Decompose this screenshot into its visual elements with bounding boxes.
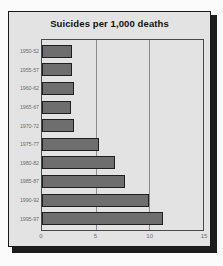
- bar: [42, 82, 74, 95]
- bar-row: 1990-92: [42, 194, 203, 207]
- bar-row: 1995-97: [42, 212, 203, 225]
- category-label: 1980-82: [20, 160, 39, 166]
- x-axis-tick-label: 5: [94, 233, 97, 239]
- bar-series: 1950-521955-571960-621965-671970-721975-…: [42, 40, 203, 230]
- bar: [42, 138, 99, 151]
- bar-row: 1985-87: [42, 175, 203, 188]
- x-axis-tick-label: 0: [39, 233, 42, 239]
- bar-row: 1960-62: [42, 82, 203, 95]
- bar: [42, 175, 125, 188]
- bar-row: 1980-82: [42, 156, 203, 169]
- bar-row: 1975-77: [42, 138, 203, 151]
- bar-row: 1955-57: [42, 63, 203, 76]
- bar: [42, 212, 163, 225]
- bar-row: 1965-67: [42, 101, 203, 114]
- x-axis-tick-label: 15: [201, 233, 208, 239]
- bar: [42, 156, 115, 169]
- chart-frame: Suicides per 1,000 deaths 1950-521955-57…: [8, 11, 211, 247]
- category-label: 1960-62: [20, 85, 39, 91]
- bar: [42, 101, 71, 114]
- bar: [42, 119, 74, 132]
- category-label: 1985-87: [20, 178, 39, 184]
- bar: [42, 45, 72, 58]
- category-label: 1965-67: [20, 104, 39, 110]
- category-label: 1975-77: [20, 141, 39, 147]
- category-label: 1970-72: [20, 123, 39, 129]
- bar: [42, 194, 149, 207]
- plot-area: 1950-521955-571960-621965-671970-721975-…: [41, 39, 204, 231]
- chart-image: Suicides per 1,000 deaths 1950-521955-57…: [0, 0, 223, 266]
- bar: [42, 63, 72, 76]
- category-label: 1955-57: [20, 67, 39, 73]
- chart-title: Suicides per 1,000 deaths: [9, 18, 210, 29]
- category-label: 1990-92: [20, 197, 39, 203]
- category-label: 1995-97: [20, 216, 39, 222]
- x-axis: 051015: [41, 233, 204, 245]
- x-axis-tick-label: 10: [146, 233, 153, 239]
- bar-row: 1970-72: [42, 119, 203, 132]
- category-label: 1950-52: [20, 48, 39, 54]
- bar-row: 1950-52: [42, 45, 203, 58]
